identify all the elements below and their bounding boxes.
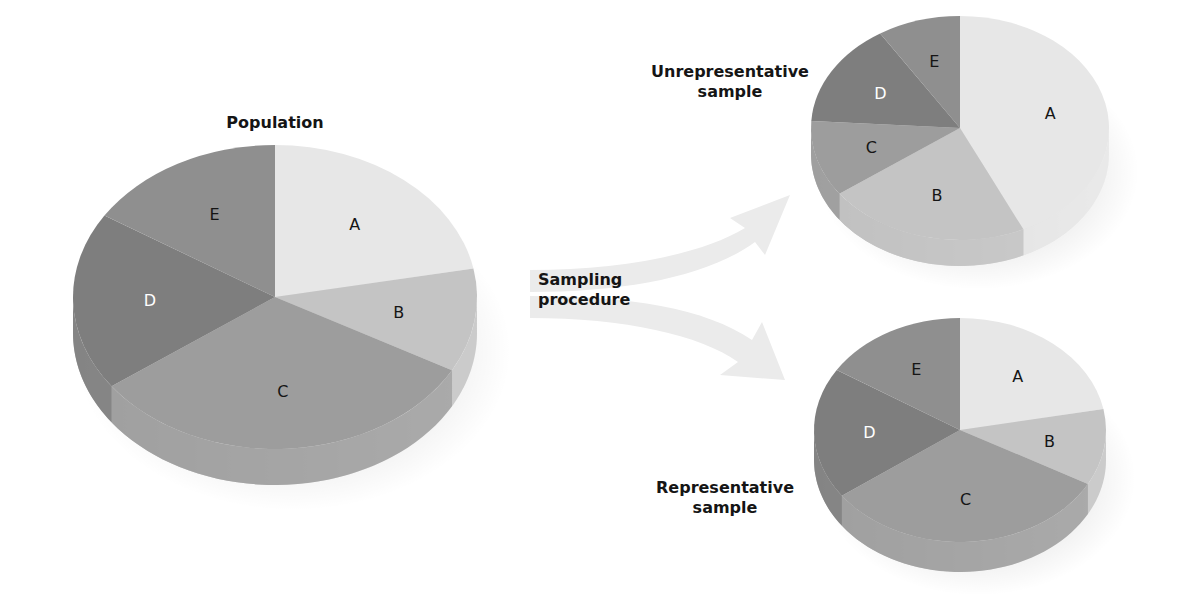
slice-label-a: A — [1012, 367, 1023, 386]
sampling-procedure-label: Sampling procedure — [538, 270, 678, 310]
unrepresentative-sample-pie: ABCDE — [811, 16, 1139, 290]
representative-sample-title: Representative sample — [625, 478, 825, 518]
slice-label-d: D — [874, 84, 886, 103]
sampling-label-line1: Sampling — [538, 270, 678, 290]
slice-label-b: B — [1044, 432, 1055, 451]
rep-label-line2: sample — [625, 498, 825, 518]
sampling-label-line2: procedure — [538, 290, 678, 310]
slice-label-b: B — [932, 186, 943, 205]
representative-sample-pie: ABCDE — [814, 318, 1136, 596]
slice-label-e: E — [929, 52, 939, 71]
slice-label-e: E — [210, 205, 220, 224]
slice-label-b: B — [393, 303, 404, 322]
slice-label-c: C — [960, 490, 971, 509]
slice-label-c: C — [866, 138, 877, 157]
slice-label-a: A — [349, 215, 360, 234]
slice-label-e: E — [911, 360, 921, 379]
slice-label-d: D — [144, 291, 156, 310]
slice-label-c: C — [277, 382, 288, 401]
rep-label-line1: Representative — [625, 478, 825, 498]
unrep-label-line2: sample — [630, 82, 830, 102]
population-title: Population — [200, 113, 350, 133]
unrepresentative-sample-title: Unrepresentative sample — [630, 62, 830, 102]
population-pie: ABCDE — [73, 145, 511, 511]
unrep-label-line1: Unrepresentative — [630, 62, 830, 82]
slice-label-a: A — [1045, 104, 1056, 123]
slice-label-d: D — [863, 423, 875, 442]
